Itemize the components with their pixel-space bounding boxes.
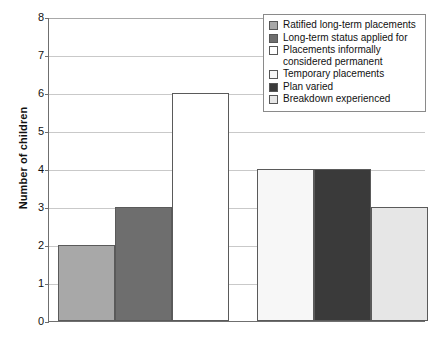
legend-swatch-icon <box>269 83 278 92</box>
legend-swatch-icon <box>269 70 278 79</box>
legend-item: Placements informally considered permane… <box>269 44 420 67</box>
bar <box>115 207 172 321</box>
legend-item: Plan varied <box>269 81 420 93</box>
y-axis-tick-label: 2 <box>28 240 44 251</box>
y-axis-tick-label: 7 <box>28 50 44 61</box>
legend-item-label: Breakdown experienced <box>283 93 390 105</box>
legend-item: Long-term status applied for <box>269 32 420 44</box>
legend: Ratified long-term placementsLong-term s… <box>263 14 426 112</box>
bar <box>314 169 371 321</box>
legend-item-label: Long-term status applied for <box>283 32 408 44</box>
y-axis-tick-label: 1 <box>28 278 44 289</box>
bar <box>58 245 115 321</box>
legend-item-label: Temporary placements <box>283 68 384 80</box>
y-axis-tick-label: 8 <box>28 12 44 23</box>
legend-item-label: Plan varied <box>283 81 333 93</box>
bar <box>371 207 428 321</box>
y-axis-tick-label: 5 <box>28 126 44 137</box>
legend-item: Breakdown experienced <box>269 93 420 105</box>
legend-item-label: Placements informally considered permane… <box>283 44 383 67</box>
legend-item: Ratified long-term placements <box>269 19 420 31</box>
bar <box>257 169 314 321</box>
legend-swatch-icon <box>269 34 278 43</box>
legend-item: Temporary placements <box>269 68 420 80</box>
y-axis-tick-label: 0 <box>28 316 44 327</box>
legend-item-label: Ratified long-term placements <box>283 19 416 31</box>
bar <box>172 93 229 321</box>
y-axis-tick-label: 3 <box>28 202 44 213</box>
y-axis-tick-label: 6 <box>28 88 44 99</box>
y-axis-tick-labels: 876543210 <box>26 0 44 337</box>
legend-swatch-icon <box>269 46 278 55</box>
legend-swatch-icon <box>269 95 278 104</box>
y-axis-tick-label: 4 <box>28 164 44 175</box>
legend-swatch-icon <box>269 21 278 30</box>
bar-chart: Number of children 876543210 Ratified lo… <box>0 0 437 337</box>
y-axis-tick-mark <box>45 322 49 323</box>
